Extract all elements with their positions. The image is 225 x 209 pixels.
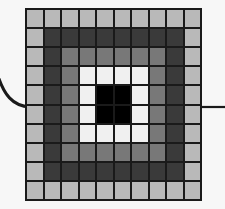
grid-cell: [62, 67, 78, 84]
grid-cell: [115, 10, 131, 27]
grid-cell: [185, 182, 201, 199]
grid-cell: [27, 144, 43, 161]
grid-cell: [80, 67, 96, 84]
grid-cell: [185, 10, 201, 27]
grid-cell: [115, 182, 131, 199]
grid-cell: [167, 48, 183, 65]
grid-cell: [97, 67, 113, 84]
grid-cell: [97, 86, 113, 103]
grid-cell: [97, 10, 113, 27]
grid-cell: [62, 10, 78, 27]
grid-cell: [62, 144, 78, 161]
grid-cell: [132, 144, 148, 161]
grid-cell: [167, 86, 183, 103]
grid-cell: [62, 86, 78, 103]
grid-cell: [150, 163, 166, 180]
grid-cell: [27, 48, 43, 65]
grid-cell: [132, 163, 148, 180]
grid-cell: [45, 163, 61, 180]
grid-cell: [132, 106, 148, 123]
grid-cell: [80, 106, 96, 123]
grid-cell: [45, 144, 61, 161]
grid-cell: [115, 106, 131, 123]
grid-cell: [185, 86, 201, 103]
grid-cell: [45, 125, 61, 142]
grid-cell: [167, 125, 183, 142]
grid-cell: [45, 48, 61, 65]
grid-cell: [45, 10, 61, 27]
grid-cell: [185, 144, 201, 161]
grid-cell: [150, 125, 166, 142]
grid-cell: [167, 106, 183, 123]
grid-cell: [115, 67, 131, 84]
grid-cell: [150, 144, 166, 161]
grid-cell: [80, 144, 96, 161]
grid-cell: [167, 10, 183, 27]
grid-cell: [27, 163, 43, 180]
grid-cell: [62, 48, 78, 65]
grid-cell: [80, 125, 96, 142]
grid-cell: [62, 106, 78, 123]
grid-cell: [80, 86, 96, 103]
grid-cell: [150, 67, 166, 84]
grid-cell: [45, 106, 61, 123]
grid-cell: [62, 182, 78, 199]
grid-cell: [80, 48, 96, 65]
grid-cell: [45, 86, 61, 103]
grid-cell: [27, 10, 43, 27]
grid-cell: [27, 182, 43, 199]
grid-cell: [115, 48, 131, 65]
grid-cell: [45, 67, 61, 84]
grid-cell: [80, 29, 96, 46]
grid-cell: [132, 29, 148, 46]
figure-canvas: [0, 0, 225, 209]
grid-cell: [185, 125, 201, 142]
straight-connector-line-icon: [200, 105, 225, 109]
grid-cell: [185, 106, 201, 123]
grid-cell: [132, 67, 148, 84]
grid-cell: [167, 182, 183, 199]
grid-cell: [45, 29, 61, 46]
grid-cell: [27, 67, 43, 84]
grid-cell: [97, 182, 113, 199]
grid-cell: [27, 86, 43, 103]
grid-cell: [97, 29, 113, 46]
grid-cell: [80, 163, 96, 180]
grid-cell: [185, 163, 201, 180]
grid-cell: [150, 86, 166, 103]
grid-cell: [27, 125, 43, 142]
grid-cell: [97, 125, 113, 142]
grid-cell: [80, 182, 96, 199]
grid-cell: [115, 163, 131, 180]
grid-cell: [132, 86, 148, 103]
ring-grid: [25, 8, 202, 201]
grid-cell: [62, 29, 78, 46]
grid-cell: [97, 144, 113, 161]
grid-cell: [150, 182, 166, 199]
grid-cell: [45, 182, 61, 199]
grid-cell: [150, 10, 166, 27]
grid-cell: [185, 29, 201, 46]
grid-cell: [150, 29, 166, 46]
grid-cell: [150, 106, 166, 123]
grid-cell: [115, 29, 131, 46]
grid-cell: [115, 144, 131, 161]
grid-cell: [132, 48, 148, 65]
grid-cell: [185, 67, 201, 84]
grid-cell: [97, 48, 113, 65]
grid-cell: [132, 125, 148, 142]
ring-grid-container: [25, 8, 202, 201]
grid-cell: [115, 86, 131, 103]
grid-cell: [167, 144, 183, 161]
grid-cell: [167, 67, 183, 84]
grid-cell: [62, 163, 78, 180]
grid-cell: [27, 106, 43, 123]
grid-cell: [80, 10, 96, 27]
grid-cell: [132, 182, 148, 199]
grid-cell: [167, 163, 183, 180]
grid-cell: [167, 29, 183, 46]
grid-cell: [27, 29, 43, 46]
grid-cell: [115, 125, 131, 142]
grid-cell: [62, 125, 78, 142]
grid-cell: [132, 10, 148, 27]
